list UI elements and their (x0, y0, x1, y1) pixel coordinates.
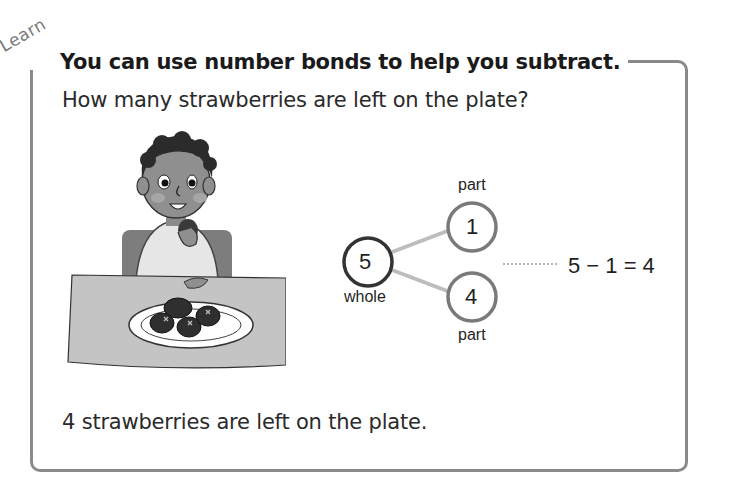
part-bottom-value: 4 (465, 284, 477, 310)
lesson-title: You can use number bonds to help you sub… (60, 50, 620, 74)
part-bottom-label: part (458, 326, 486, 344)
part-top-label: part (458, 176, 486, 194)
whole-value: 5 (359, 249, 371, 275)
title-container: You can use number bonds to help you sub… (52, 45, 628, 79)
part-top-value: 1 (466, 214, 478, 240)
question-text: How many strawberries are left on the pl… (62, 88, 528, 112)
number-bond-diagram: 5 whole part 1 4 part 5 − 1 = 4 (330, 170, 690, 350)
whole-label: whole (344, 288, 386, 306)
child-eating-strawberries-illustration (66, 120, 286, 370)
subtraction-equation: 5 − 1 = 4 (568, 253, 655, 279)
answer-text: 4 strawberries are left on the plate. (62, 410, 427, 434)
